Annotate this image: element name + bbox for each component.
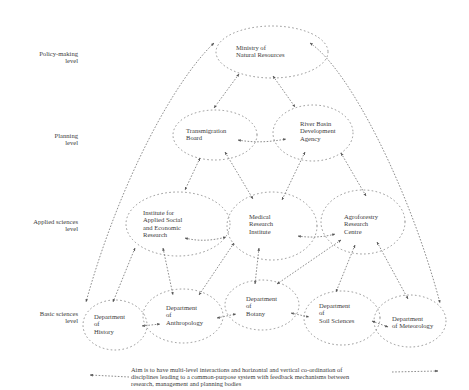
level-label-basic: Basic sciences level [40, 310, 78, 325]
level-label-planning: Planning level [55, 132, 78, 147]
diagram-caption: Aim is to have multi-level interactions … [131, 366, 349, 388]
level-label-applied: Applied sciences level [33, 218, 78, 233]
node-anthropology: Department of Anthropology [166, 304, 203, 326]
node-ministry: Ministry of Natural Resources [236, 44, 285, 59]
node-agroforestry: Agroforestry Research Centre [344, 213, 378, 235]
node-transmigration: Transmigration Board [186, 127, 226, 142]
node-history: Department of History [94, 313, 125, 335]
node-botany: Department of Botany [246, 295, 277, 317]
node-institute-social: Institute for Applied Social and Economi… [143, 209, 182, 239]
node-soil: Department of Soil Sciences [319, 302, 354, 324]
node-river-basin: River Basin Development Agency [300, 120, 336, 142]
level-label-policy: Policy-making level [39, 50, 78, 65]
node-meteorology: Department of Meteorology [392, 315, 433, 330]
node-medical: Medical Research Institute [249, 213, 273, 235]
